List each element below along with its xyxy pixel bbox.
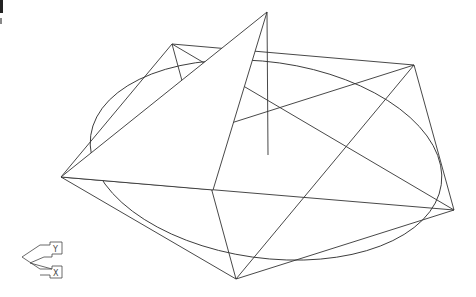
ucs-x-label: X: [53, 269, 59, 278]
ucs-y-label: Y: [52, 245, 58, 254]
vertical-axis-line: [267, 12, 268, 155]
ucs-icon: Y X: [22, 242, 62, 278]
wireframe-drawing: Y X: [0, 0, 476, 297]
pyramid-face: [61, 12, 267, 190]
drawing-viewport[interactable]: Y X: [0, 0, 476, 297]
